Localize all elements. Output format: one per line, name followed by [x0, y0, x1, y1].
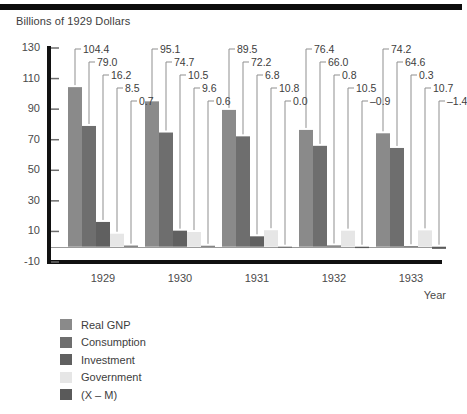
data-label: 0.8	[342, 69, 357, 81]
data-label: 10.5	[356, 82, 376, 94]
legend-swatch	[60, 372, 72, 383]
data-label: 74.2	[391, 43, 411, 55]
bar	[355, 247, 369, 248]
legend-swatch	[60, 389, 72, 400]
bar	[432, 247, 446, 249]
x-axis-spine	[47, 260, 442, 264]
bar	[110, 234, 124, 247]
bar	[278, 247, 292, 248]
bar	[145, 101, 159, 246]
data-label: 0.0	[293, 95, 308, 107]
bar	[327, 245, 341, 246]
data-label: 74.7	[174, 56, 194, 68]
data-label: 0.3	[419, 69, 434, 81]
y-axis-spine	[47, 46, 51, 264]
data-label: 64.6	[405, 56, 425, 68]
data-label: 10.8	[279, 82, 299, 94]
data-label: 79.0	[97, 56, 117, 68]
data-label: –1.4	[447, 95, 467, 107]
chart-legend: Real GNPConsumptionInvestmentGovernment(…	[60, 316, 146, 404]
legend-label: Consumption	[81, 336, 146, 348]
data-label: 66.0	[328, 56, 348, 68]
legend-item: (X – M)	[60, 386, 146, 404]
y-axis-tick-label: 70	[10, 133, 40, 145]
x-axis-title: Year	[424, 289, 446, 301]
bar	[250, 236, 264, 246]
data-label: 89.5	[237, 43, 257, 55]
bar	[404, 246, 418, 247]
y-axis-tick-label: 10	[10, 224, 40, 236]
data-label: 8.5	[125, 82, 140, 94]
bar	[68, 87, 82, 247]
bar	[96, 222, 110, 247]
bar	[313, 146, 327, 247]
bar	[222, 110, 236, 247]
legend-swatch	[60, 354, 72, 365]
data-label: 10.7	[433, 82, 453, 94]
bar	[341, 231, 355, 247]
data-label: 6.8	[265, 69, 280, 81]
y-axis-tick-label: 50	[10, 163, 40, 175]
data-label: 9.6	[202, 82, 217, 94]
data-label: 76.4	[314, 43, 334, 55]
legend-label: Real GNP	[81, 319, 131, 331]
data-label: 104.4	[83, 43, 109, 55]
bar	[82, 126, 96, 247]
legend-label: Investment	[81, 354, 135, 366]
legend-swatch	[60, 319, 72, 330]
bar	[236, 136, 250, 246]
y-axis-ticks	[51, 48, 59, 262]
bar	[187, 232, 201, 247]
data-label: –0.9	[370, 95, 390, 107]
legend-item: Government	[60, 369, 146, 387]
legend-item: Real GNP	[60, 316, 146, 334]
legend-swatch	[60, 337, 72, 348]
data-label: 72.2	[251, 56, 271, 68]
bar	[418, 230, 432, 246]
data-label: 95.1	[160, 43, 180, 55]
data-label: 10.5	[188, 69, 208, 81]
legend-label: Government	[81, 371, 142, 383]
legend-item: Investment	[60, 351, 146, 369]
x-axis-tick-label: 1931	[217, 272, 297, 284]
legend-label: (X – M)	[81, 389, 117, 401]
bar	[299, 130, 313, 247]
bar	[124, 246, 138, 247]
x-axis-tick-label: 1929	[63, 272, 143, 284]
bar	[390, 148, 404, 247]
bar	[376, 133, 390, 246]
y-axis-tick-label: -10	[10, 255, 40, 267]
x-axis-tick-label: 1930	[140, 272, 220, 284]
x-axis-tick-label: 1932	[294, 272, 374, 284]
y-axis-tick-label: 110	[10, 72, 40, 84]
x-axis-tick-label: 1933	[371, 272, 451, 284]
y-axis-tick-label: 130	[10, 41, 40, 53]
legend-item: Consumption	[60, 334, 146, 352]
y-axis-tick-label: 90	[10, 102, 40, 114]
data-label: 0.7	[139, 95, 154, 107]
y-axis-tick-label: 30	[10, 194, 40, 206]
bar	[264, 230, 278, 247]
bar	[159, 133, 173, 247]
bar	[173, 231, 187, 247]
data-label: 16.2	[111, 69, 131, 81]
data-label: 0.6	[216, 95, 231, 107]
bar	[201, 246, 215, 247]
